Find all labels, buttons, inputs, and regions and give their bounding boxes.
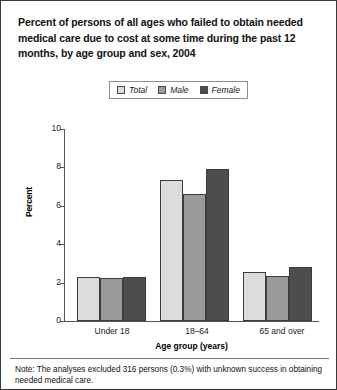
bar-65-and-over-total xyxy=(243,272,266,321)
bar-under-18-total xyxy=(77,277,100,321)
group-gap-2 xyxy=(229,320,243,321)
note-divider xyxy=(10,358,329,359)
plot-area: Percent 0246810 xyxy=(1,1,337,390)
y-tick-label-10: 10 xyxy=(52,123,61,133)
figure-panel: Percent of persons of all ages who faile… xyxy=(0,0,337,390)
y-tick-label-6: 6 xyxy=(56,200,61,210)
x-category-label-18-64: 18–64 xyxy=(185,326,209,336)
chart-note: Note: The analyses excluded 316 persons … xyxy=(15,364,325,386)
x-axis-label: Age group (years) xyxy=(64,341,319,351)
x-axis-line xyxy=(64,321,319,322)
group-gap-1 xyxy=(146,320,160,321)
y-axis-label: Percent xyxy=(24,172,34,232)
bar-65-and-over-male xyxy=(266,276,289,321)
bar-under-18-male xyxy=(100,278,123,321)
axis-inner-pad xyxy=(65,320,77,321)
y-tick-label-8: 8 xyxy=(56,161,61,171)
axes-box: 0246810 xyxy=(64,129,319,322)
bar-series-container xyxy=(65,129,319,321)
bar-65-and-over-female xyxy=(289,267,312,321)
bar-18-64-female xyxy=(206,169,229,321)
y-tick-label-0: 0 xyxy=(56,315,61,325)
bar-18-64-total xyxy=(160,180,183,321)
x-category-label-under-18: Under 18 xyxy=(95,326,130,336)
bar-group-18-64 xyxy=(160,129,229,321)
x-category-label-65-and-over: 65 and over xyxy=(260,326,305,336)
bar-18-64-male xyxy=(183,194,206,321)
bar-group-under-18 xyxy=(77,129,146,321)
y-tick-label-4: 4 xyxy=(56,238,61,248)
y-tick-label-2: 2 xyxy=(56,277,61,287)
bar-group-65-and-over xyxy=(243,129,312,321)
bar-under-18-female xyxy=(123,277,146,321)
x-axis-category-labels: Under 18 18–64 65 and over xyxy=(64,326,319,340)
